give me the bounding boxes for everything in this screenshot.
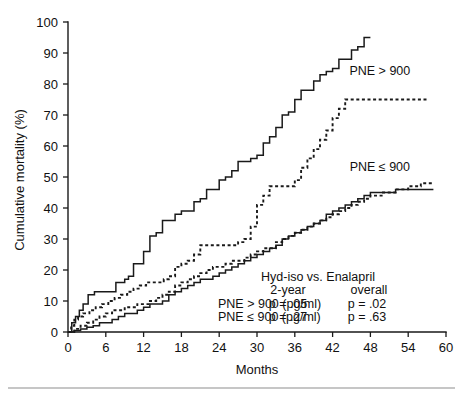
curve-label-1: PNE > 900	[349, 64, 410, 78]
x-tick-label: 0	[64, 340, 71, 355]
x-axis-title: Months	[236, 362, 279, 377]
x-tick-label: 42	[325, 340, 339, 355]
stats-annotation: Hyd-iso vs. Enalapril 2-year overall PNE…	[218, 270, 387, 324]
y-tick-label: 30	[44, 232, 58, 247]
curve-label-2: PNE ≤ 900	[350, 160, 410, 174]
x-tick-label: 6	[102, 340, 109, 355]
figure-container: 0102030405060708090100 06121824303642485…	[0, 0, 463, 395]
y-axis-ticks	[63, 22, 68, 332]
y-axis-title: Cumulative mortality (%)	[12, 109, 27, 251]
stats-row-low-overall: p = .63	[348, 310, 387, 324]
x-tick-label: 48	[363, 340, 377, 355]
x-tick-label: 60	[439, 340, 453, 355]
x-axis-tick-labels: 06121824303642485460	[64, 340, 453, 355]
stats-row-high-2year: p = .05	[269, 297, 308, 311]
x-tick-label: 24	[212, 340, 226, 355]
y-tick-label: 60	[44, 139, 58, 154]
y-tick-label: 50	[44, 170, 58, 185]
x-tick-label: 18	[174, 340, 188, 355]
curve-1	[68, 38, 370, 333]
y-tick-label: 70	[44, 108, 58, 123]
y-axis-tick-labels: 0102030405060708090100	[36, 15, 58, 340]
y-tick-label: 0	[51, 325, 58, 340]
stats-col-header-2year: 2-year	[270, 283, 305, 297]
y-tick-label: 90	[44, 46, 58, 61]
curve-labels: PNE > 900PNE ≤ 900	[349, 64, 410, 174]
x-tick-label: 36	[288, 340, 302, 355]
stats-row-high-overall: p = .02	[348, 297, 387, 311]
y-tick-label: 20	[44, 263, 58, 278]
stats-row-low-2year: p = .27	[269, 310, 308, 324]
stats-header-title: Hyd-iso vs. Enalapril	[261, 270, 375, 284]
y-tick-label: 10	[44, 294, 58, 309]
y-tick-label: 100	[36, 15, 58, 30]
x-tick-label: 12	[136, 340, 150, 355]
x-tick-label: 30	[250, 340, 264, 355]
cumulative-mortality-chart: 0102030405060708090100 06121824303642485…	[0, 0, 463, 395]
x-tick-label: 54	[401, 340, 415, 355]
y-tick-label: 80	[44, 77, 58, 92]
stats-col-header-overall: overall	[351, 283, 388, 297]
x-axis-ticks	[68, 332, 446, 337]
y-tick-label: 40	[44, 201, 58, 216]
